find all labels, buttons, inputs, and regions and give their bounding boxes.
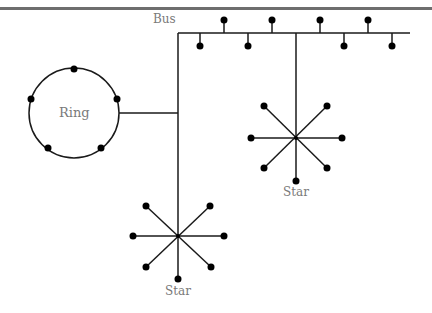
bus-node (197, 43, 204, 50)
star-node (293, 178, 300, 185)
bus-node (341, 43, 348, 50)
star-node (207, 203, 214, 210)
bus-node (245, 43, 252, 50)
star-hub (176, 234, 180, 238)
star-right-label: Star (283, 185, 309, 199)
star-node (339, 135, 346, 142)
topology-diagram (0, 0, 432, 313)
ring-node (98, 145, 105, 152)
star-bottom-label: Star (165, 284, 191, 298)
star-node (143, 264, 150, 271)
bus-node (269, 17, 276, 24)
star-node (324, 103, 331, 110)
star-node (221, 233, 228, 240)
ring-node (114, 96, 121, 103)
bus-node (221, 17, 228, 24)
ring-node (28, 96, 35, 103)
star-hub (294, 136, 298, 140)
bus-node (389, 43, 396, 50)
ring-node (45, 145, 52, 152)
star-node (143, 203, 150, 210)
star-node (175, 276, 182, 283)
star-node (248, 135, 255, 142)
star-node (130, 233, 137, 240)
star-node (261, 103, 268, 110)
ring-label: Ring (59, 105, 90, 120)
bus-node (365, 17, 372, 24)
star-node (261, 165, 268, 172)
bus-label: Bus (153, 12, 176, 26)
ring-node (71, 66, 78, 73)
star-node (208, 264, 215, 271)
star-node (324, 165, 331, 172)
bus-node (317, 17, 324, 24)
